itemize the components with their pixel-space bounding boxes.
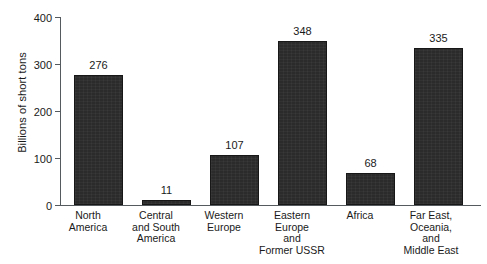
bar-group-5: 335 (414, 17, 463, 205)
x-category-label-western-europe: Western Europe (190, 210, 258, 233)
bar-group-2: 107 (210, 17, 259, 205)
bar-value-far-east-oceania-and-middle-east: 335 (402, 33, 475, 44)
x-category-label-north-america: North America (54, 210, 122, 233)
bar-eastern-europe-and-former-ussr (278, 41, 327, 205)
bar-value-eastern-europe-and-former-ussr: 348 (266, 26, 339, 37)
bar-group-0: 276 (74, 17, 123, 205)
y-tick-label-400: 400 (10, 13, 52, 24)
x-axis-line (60, 205, 481, 206)
bar-value-africa: 68 (334, 158, 407, 169)
bar-chart-figure: Billions of short tons 400 300 200 100 0… (0, 0, 487, 264)
y-tick-label-0: 0 (10, 201, 52, 212)
bar-value-western-europe: 107 (198, 140, 271, 151)
bar-value-north-america: 276 (62, 60, 135, 71)
bar-western-europe (210, 155, 259, 205)
x-category-label-africa: Africa (326, 210, 394, 222)
bar-group-1: 11 (142, 17, 191, 205)
bar-africa (346, 173, 395, 205)
x-category-label-central-and-south-america: Central and South America (122, 210, 190, 245)
bar-far-east-oceania-and-middle-east (414, 48, 463, 205)
y-tick-label-300: 300 (10, 60, 52, 71)
y-tick-label-100: 100 (10, 154, 52, 165)
y-axis-title: Billions of short tons (14, 0, 30, 205)
bar-central-and-south-america (142, 200, 191, 205)
x-category-label-far-east-oceania-and-middle-east: Far East, Oceania, and Middle East (392, 210, 470, 256)
bar-group-4: 68 (346, 17, 395, 205)
bar-group-3: 348 (278, 17, 327, 205)
x-category-label-eastern-europe-and-former-ussr: Eastern Europe and Former USSR (256, 210, 328, 256)
bar-north-america (74, 75, 123, 205)
plot-area: 276 11 107 348 68 335 (61, 17, 481, 205)
y-tick-label-200: 200 (10, 107, 52, 118)
bar-value-central-and-south-america: 11 (130, 185, 203, 196)
